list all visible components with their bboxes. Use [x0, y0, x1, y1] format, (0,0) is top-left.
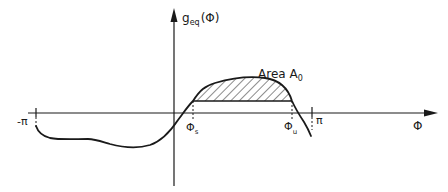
y-axis	[171, 8, 178, 186]
g-eq-phi-diagram: -π Φs Φu π geq(Φ) Φ Area A0	[0, 0, 448, 192]
tick-label-phi-u: Φu	[284, 120, 297, 136]
tick-label-phi-s: Φs	[186, 121, 199, 136]
tick-pi: π	[312, 107, 323, 130]
x-axis-arrow-icon	[424, 110, 438, 117]
x-axis-label: Φ	[413, 119, 422, 133]
tick-label-minus-pi: -π	[17, 115, 28, 128]
tick-label-pi: π	[316, 114, 323, 127]
y-axis-arrow-icon	[171, 8, 178, 22]
tick-minus-pi: -π	[17, 108, 36, 128]
area-a0-label: Area A0	[258, 67, 303, 83]
x-axis	[28, 110, 438, 117]
y-axis-label: geq(Φ)	[182, 11, 219, 27]
